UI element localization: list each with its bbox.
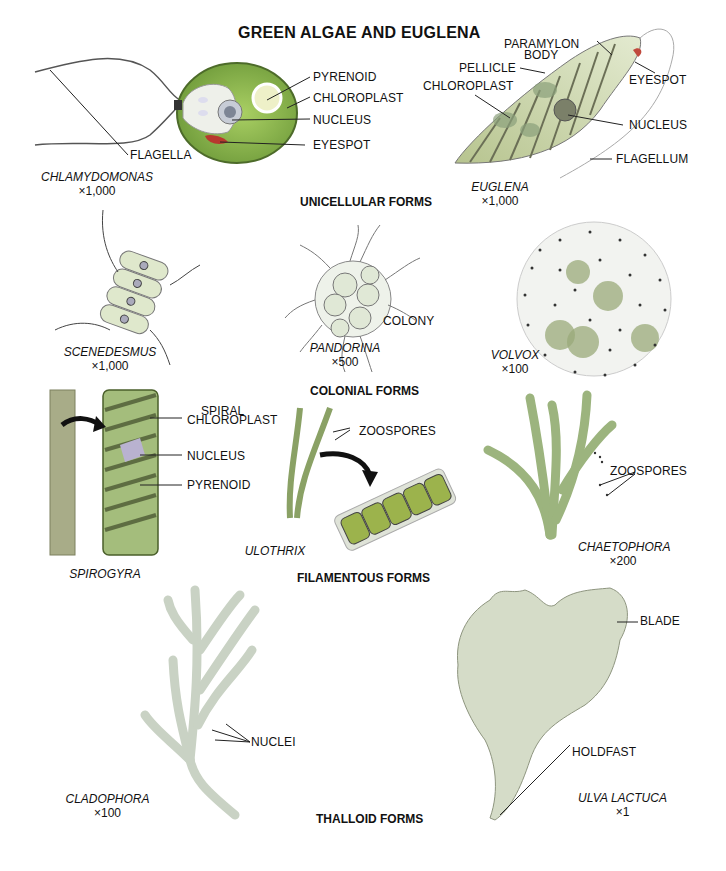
species-ulva-lactuca: ULVA LACTUCA ×1 xyxy=(575,791,670,819)
species-name: ULOTHRIX xyxy=(245,544,306,558)
species-pandorina: PANDORINA ×500 xyxy=(305,341,385,369)
species-euglena: EUGLENA ×1,000 xyxy=(465,180,535,208)
label-chloroplast: CHLOROPLAST xyxy=(423,80,513,93)
label-pyrenoid: PYRENOID xyxy=(187,479,250,492)
label-nucleus: NUCLEUS xyxy=(187,450,245,463)
label-holdfast: HOLDFAST xyxy=(572,746,636,759)
spirogyra-drawing xyxy=(50,390,182,555)
label-blade: BLADE xyxy=(640,615,680,628)
species-name: EUGLENA xyxy=(471,180,528,194)
species-cladophora: CLADOPHORA ×100 xyxy=(60,792,155,820)
species-name: SPIROGYRA xyxy=(69,567,140,581)
species-chaetophora: CHAETOPHORA ×200 xyxy=(578,540,668,568)
ulva-drawing xyxy=(457,588,638,820)
label-flagella: FLAGELLA xyxy=(130,149,192,162)
label-chloroplast: CHLOROPLAST xyxy=(313,92,403,105)
section-colonial: COLONIAL FORMS xyxy=(310,384,419,398)
page-title: GREEN ALGAE AND EUGLENA xyxy=(238,24,481,42)
label-nucleus: NUCLEUS xyxy=(629,119,687,132)
magnification: ×1,000 xyxy=(465,194,535,208)
cladophora-drawing xyxy=(145,590,255,815)
species-name: CHLAMYDOMONAS xyxy=(41,170,153,184)
species-name: ULVA LACTUCA xyxy=(578,791,667,805)
magnification: ×1,000 xyxy=(55,359,165,373)
magnification: ×100 xyxy=(485,362,545,376)
magnification: ×100 xyxy=(60,806,155,820)
label-body: BODY xyxy=(524,49,558,62)
magnification: ×1 xyxy=(575,805,670,819)
label-nucleus: NUCLEUS xyxy=(313,114,371,127)
magnification: ×1,000 xyxy=(37,184,157,198)
section-filamentous: FILAMENTOUS FORMS xyxy=(297,571,430,585)
label-flagellum: FLAGELLUM xyxy=(616,153,688,166)
label-nuclei: NUCLEI xyxy=(251,736,296,749)
species-volvox: VOLVOX ×100 xyxy=(485,348,545,376)
species-name: CLADOPHORA xyxy=(65,792,149,806)
label-chloroplast: CHLOROPLAST xyxy=(187,414,277,427)
label-pyrenoid: PYRENOID xyxy=(313,71,376,84)
section-thalloid: THALLOID FORMS xyxy=(316,812,423,826)
species-ulothrix: ULOTHRIX xyxy=(240,544,310,558)
label-zoospores: ZOOSPORES xyxy=(610,465,687,478)
magnification: ×200 xyxy=(578,554,668,568)
section-unicellular: UNICELLULAR FORMS xyxy=(300,195,432,209)
species-name: PANDORINA xyxy=(310,341,380,355)
scenedesmus-drawing xyxy=(98,249,171,337)
species-scenedesmus: SCENEDESMUS ×1,000 xyxy=(55,345,165,373)
magnification: ×500 xyxy=(305,355,385,369)
chaetophora-drawing xyxy=(488,395,612,535)
species-spirogyra: SPIROGYRA xyxy=(65,567,145,581)
label-zoospores: ZOOSPORES xyxy=(359,425,436,438)
species-name: VOLVOX xyxy=(491,348,540,362)
label-colony: COLONY xyxy=(383,315,434,328)
label-pellicle: PELLICLE xyxy=(459,62,516,75)
species-chlamydomonas: CHLAMYDOMONAS ×1,000 xyxy=(37,170,157,198)
species-name: SCENEDESMUS xyxy=(64,345,157,359)
label-eyespot: EYESPOT xyxy=(629,74,686,87)
species-name: CHAETOPHORA xyxy=(578,540,670,554)
label-eyespot: EYESPOT xyxy=(313,139,370,152)
